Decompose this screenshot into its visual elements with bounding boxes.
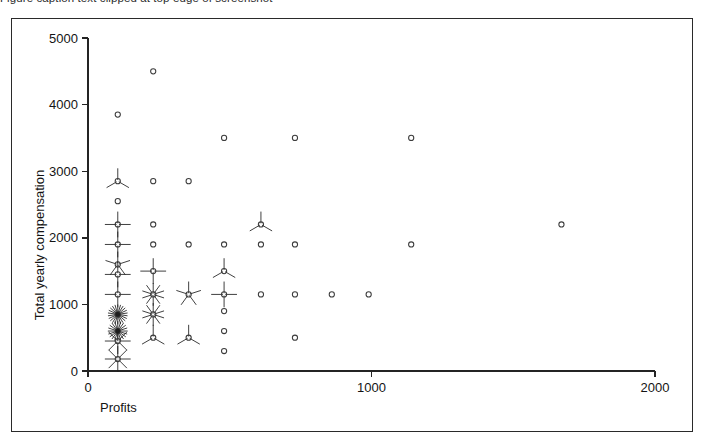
sunflower-marker [115,112,120,117]
axes-layer [88,38,655,371]
sunflower-marker [221,328,226,333]
axis-titles-layer: ProfitsTotal yearly compensation [32,170,137,415]
sunflower-petal [119,342,127,350]
sunflower-marker [151,222,156,227]
x-tick-label: 1000 [357,380,386,395]
chart-svg-canvas: 010002000300040005000010002000 ProfitsTo… [0,0,712,444]
x-tick-label: 0 [84,380,91,395]
sunflower-petal [190,339,199,344]
sunflower-petal [190,296,196,305]
sunflower-marker [258,292,263,297]
sunflower-marker [115,199,120,204]
data-point-ring [292,335,297,340]
sunflower-petal [106,261,116,264]
sunflower-marker [366,292,371,297]
sunflower-petal [250,225,259,230]
sunflower-petal [119,350,127,358]
data-point-ring [221,135,226,140]
sunflower-petal [177,291,187,294]
sunflower-marker [250,212,272,231]
x-tick-label: 2000 [641,380,670,395]
data-point-ring [221,348,226,353]
sunflower-petal [225,272,234,277]
y-axis-title: Total yearly compensation [32,170,47,320]
y-tick-label: 0 [71,364,78,379]
sunflower-marker [221,135,226,140]
data-point-ring [186,179,191,184]
sunflower-marker [292,335,297,340]
data-point-ring [292,242,297,247]
data-point-ring [409,135,414,140]
sunflower-marker [178,325,200,344]
sunflower-petal [119,360,127,368]
sunflower-marker [177,282,201,305]
data-point-ring [151,69,156,74]
data-point-ring [221,308,226,313]
sunflower-marker [151,179,156,184]
sunflower-petal [142,339,151,344]
y-tick-label: 3000 [49,164,78,179]
sunflower-marker [143,303,164,325]
sunflower-marker [186,242,191,247]
sunflower-marker [221,242,226,247]
sunflower-marker [143,283,164,305]
sunflower-marker [559,222,564,227]
sunflower-petal [262,225,271,230]
data-point-core [115,312,120,317]
sunflower-petal [119,261,129,264]
sunflower-petal [109,332,117,340]
data-point-ring [409,242,414,247]
y-tick-label: 2000 [49,230,78,245]
sunflower-marker [213,259,235,278]
sunflower-marker [329,292,334,297]
ticks-layer [82,38,655,377]
data-point-ring [115,112,120,117]
sunflower-marker [292,292,297,297]
sunflower-marker [258,242,263,247]
data-point-ring [258,292,263,297]
sunflower-petal [119,332,127,340]
sunflower-marker [409,242,414,247]
scatter-plot-chart: 010002000300040005000010002000 ProfitsTo… [0,0,712,444]
data-point-ring [151,222,156,227]
sunflower-petal [119,182,128,187]
data-point-ring [151,179,156,184]
sunflower-marker [108,305,127,324]
sunflower-marker [221,308,226,313]
data-point-ring [366,292,371,297]
y-tick-label: 4000 [49,97,78,112]
sunflower-petal [178,339,187,344]
sunflower-petal [109,350,117,358]
sunflower-marker [142,325,164,344]
data-point-ring [559,222,564,227]
data-point-ring [292,135,297,140]
x-axis-title: Profits [100,400,137,415]
tick-labels-layer: 010002000300040005000010002000 [49,31,669,396]
sunflower-marker [212,282,237,307]
data-point-ring [115,199,120,204]
sunflower-marker [141,259,166,284]
sunflower-marker [105,347,130,372]
y-tick-label: 1000 [49,297,78,312]
sunflower-petal [213,272,222,277]
sunflower-marker [105,282,130,307]
sunflower-marker [292,135,297,140]
sunflower-marker [151,69,156,74]
sunflower-petal [109,342,117,350]
data-point-ring [258,242,263,247]
sunflower-marker [186,179,191,184]
data-point-ring [221,328,226,333]
data-point-ring [221,242,226,247]
sunflower-petal [107,182,116,187]
data-point-ring [186,242,191,247]
y-tick-label: 5000 [49,31,78,46]
sunflower-marker [151,242,156,247]
sunflower-petal [181,296,187,305]
data-points-layer [105,69,564,372]
data-point-ring [292,292,297,297]
sunflower-marker [292,242,297,247]
sunflower-petal [190,291,200,294]
sunflower-petal [155,339,164,344]
data-point-ring [329,292,334,297]
sunflower-marker [221,348,226,353]
